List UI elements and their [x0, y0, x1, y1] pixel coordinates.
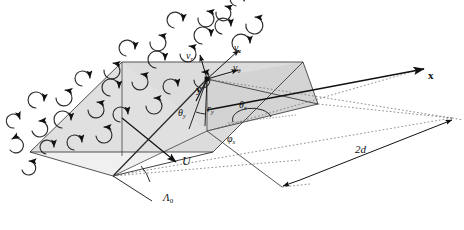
eddy — [22, 161, 36, 175]
eddy — [150, 35, 166, 51]
label-v-theta: vθ — [233, 63, 241, 74]
dotted-right-tail — [452, 118, 463, 120]
eddy — [119, 40, 135, 56]
base-lower-right-a — [207, 131, 282, 187]
eddy — [230, 0, 244, 6]
shaded-surfaces — [30, 62, 318, 176]
label-v-z: vz — [234, 43, 241, 54]
length-2d-arrow-right — [300, 120, 452, 180]
eddy — [194, 27, 211, 44]
eddy — [6, 114, 20, 128]
label-sweep-angle: Λ0 — [163, 192, 173, 205]
label-y-axis: y — [196, 84, 202, 95]
diagram-svg — [0, 0, 464, 230]
eddy — [28, 92, 44, 108]
figure-canvas: vr vz vθ y x ry θy θx φx U Λ0 2d — [0, 0, 464, 230]
label-theta-x: θx — [239, 100, 247, 111]
label-phi-x: φx — [227, 134, 235, 145]
label-r-y: ry — [207, 104, 214, 115]
eddy — [246, 17, 263, 34]
eddy — [198, 11, 214, 27]
eddy — [10, 138, 23, 153]
label-v-r: vr — [186, 51, 193, 62]
eddy — [75, 71, 90, 86]
label-freestream-U: U — [182, 155, 191, 167]
eddy — [32, 121, 48, 137]
eddy — [167, 12, 183, 28]
label-x-axis: x — [428, 70, 434, 81]
sweep-angle-leg — [113, 176, 152, 201]
dotted-plane-lower — [318, 104, 452, 118]
label-length-2d: 2d — [355, 144, 366, 155]
label-theta-y: θy — [178, 108, 186, 119]
eddy — [56, 90, 72, 106]
